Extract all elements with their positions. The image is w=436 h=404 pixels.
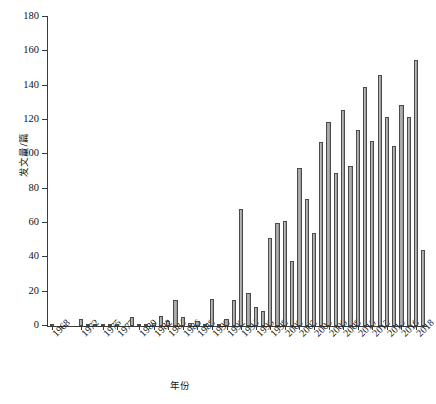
bar [283,221,287,326]
y-axis-tick-label: 40 [29,250,40,261]
bar [275,223,279,326]
bar [188,323,192,326]
y-axis-tick-label: 0 [34,319,39,330]
bar [173,300,177,326]
bar [290,261,294,326]
y-axis-tick-label: 160 [23,44,39,55]
bar [232,300,236,326]
bar [319,142,323,326]
bar [356,130,360,326]
y-axis-tick: 140 [42,85,48,86]
bar [79,319,83,326]
bar [399,105,403,326]
bar [392,146,396,326]
y-axis-tick-label: 120 [23,113,39,124]
bar [312,233,316,326]
bar [246,293,250,326]
bar [261,311,265,326]
y-axis-tick: 60 [42,222,48,223]
bar [407,117,411,326]
y-axis-tick-label: 80 [29,182,40,193]
y-axis-tick: 0 [42,325,48,326]
bar [385,117,389,326]
bar [217,324,221,326]
y-axis-tick-label: 20 [29,285,40,296]
bar [363,87,367,326]
y-axis-tick-label: 140 [23,79,39,90]
bar [203,324,207,326]
x-axis-title: 年份 [170,378,190,392]
y-axis-tick: 160 [42,50,48,51]
y-axis-tick: 80 [42,188,48,189]
bar [181,317,185,326]
bar [108,324,112,326]
y-axis-tick-label: 180 [23,10,39,21]
y-axis-tick-label: 100 [23,147,39,158]
bar [159,316,163,326]
bar [341,110,345,326]
bar [334,173,338,326]
plot-area: 0204060801001201401601801968197219751977… [47,17,427,327]
bar [254,307,258,326]
bar [348,166,352,326]
bar [86,324,90,326]
bar [378,75,382,326]
y-axis-tick: 120 [42,119,48,120]
y-axis-tick: 20 [42,291,48,292]
bar [421,250,425,326]
bar [370,141,374,326]
bar [130,317,134,326]
bar [414,60,418,326]
bar [297,168,301,326]
y-axis-tick-label: 60 [29,216,40,227]
bar [268,238,272,326]
y-axis-tick: 40 [42,256,48,257]
bar [239,209,243,326]
bar [93,324,97,326]
y-axis-tick: 180 [42,16,48,17]
bar [305,199,309,326]
bar [210,299,214,326]
bar [224,319,228,326]
bar [326,122,330,326]
y-axis-tick: 100 [42,153,48,154]
bar [144,324,148,326]
x-axis-tick-label: 1968 [50,317,72,339]
